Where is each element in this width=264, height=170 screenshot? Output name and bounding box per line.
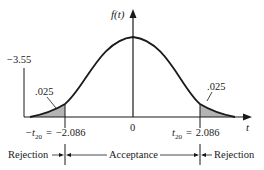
y-axis-label: f(t)	[111, 8, 125, 21]
arrow-right-icon	[194, 153, 199, 157]
left-critical-value: −2.086	[56, 127, 86, 138]
right-tail-area: .025	[207, 81, 225, 92]
t-distribution-diagram: f(t) t −3.55 .025 .025 0 −t20=−2.086 t20…	[0, 0, 264, 170]
left-tail-area: .025	[35, 86, 53, 97]
left-area-leader	[47, 97, 56, 108]
arrow-left-icon	[66, 153, 71, 157]
left-critical-subscript: 20	[35, 133, 43, 141]
left-rejection-label: Rejection	[8, 149, 49, 160]
x-axis-arrow-icon	[243, 114, 252, 121]
right-critical-equals: =	[186, 127, 192, 138]
left-critical-label: −t20=−2.086	[25, 127, 85, 141]
acceptance-label: Acceptance	[109, 149, 158, 160]
left-critical-equals: =	[46, 127, 52, 138]
y-axis-arrow-icon	[130, 9, 137, 18]
right-critical-subscript: 20	[175, 133, 183, 141]
origin-label: 0	[130, 122, 135, 133]
arrow-right-icon	[59, 153, 64, 157]
arrow-left-icon	[201, 153, 206, 157]
right-critical-value: 2.086	[196, 127, 220, 138]
right-critical-label: t20=2.086	[172, 127, 219, 141]
right-area-leader	[207, 92, 212, 101]
x-axis-label: t	[246, 121, 250, 133]
left-marker-value: −3.55	[7, 54, 31, 65]
right-rejection-label: Rejection	[214, 149, 255, 160]
